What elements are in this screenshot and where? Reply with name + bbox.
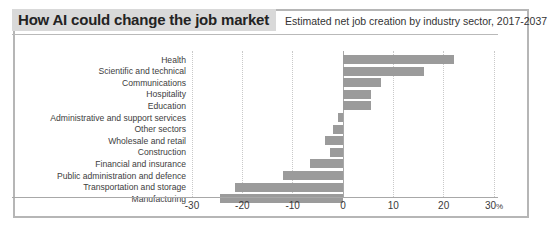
bar bbox=[343, 90, 371, 99]
bar bbox=[333, 125, 343, 134]
category-label: Construction bbox=[138, 147, 186, 157]
bar bbox=[310, 159, 343, 168]
category-label: Health bbox=[161, 55, 186, 65]
category-label: Financial and insurance bbox=[95, 159, 186, 169]
bar bbox=[283, 171, 343, 180]
bar bbox=[235, 183, 343, 192]
category-label: Administrative and support services bbox=[50, 113, 186, 123]
gridline bbox=[192, 51, 194, 197]
gridline bbox=[242, 51, 244, 197]
category-label: Other sectors bbox=[134, 124, 186, 134]
bar bbox=[343, 101, 371, 110]
category-label: Transportation and storage bbox=[83, 182, 186, 192]
category-label: Communications bbox=[122, 78, 186, 88]
category-label: Hospitality bbox=[146, 89, 186, 99]
category-label: Public administration and defence bbox=[57, 171, 186, 181]
bar bbox=[343, 67, 424, 76]
bar bbox=[343, 55, 454, 64]
bar bbox=[338, 113, 343, 122]
bar-chart-plot: HealthScientific and technicalCommunicat… bbox=[0, 0, 516, 205]
x-axis-tick-label: 30% bbox=[464, 200, 524, 211]
bar bbox=[330, 148, 343, 157]
category-label: Wholesale and retail bbox=[108, 136, 186, 146]
category-label: Education bbox=[148, 101, 186, 111]
bar bbox=[343, 78, 381, 87]
bar bbox=[325, 136, 343, 145]
gridline bbox=[443, 51, 445, 197]
gridline bbox=[494, 51, 496, 197]
x-axis-line bbox=[12, 197, 498, 198]
category-label: Scientific and technical bbox=[99, 66, 186, 76]
